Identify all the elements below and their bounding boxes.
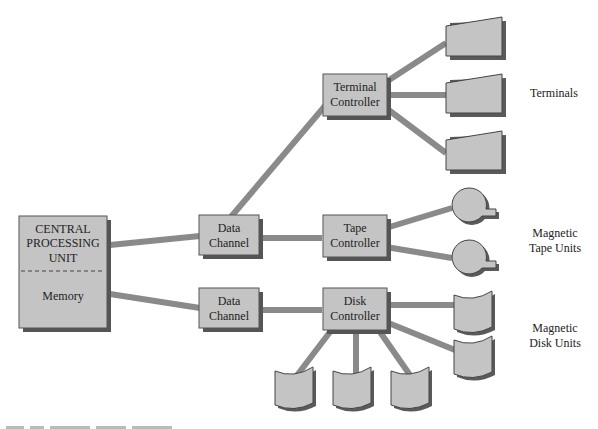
- terminal-icon: [446, 17, 506, 60]
- cpu-memory-box: CENTRAL PROCESSING UNIT Memory: [19, 216, 111, 332]
- link-disk-2: [386, 322, 455, 350]
- disk-icon: [333, 367, 374, 412]
- tape-unit-icon: [452, 188, 499, 225]
- link-terminal-3: [386, 108, 446, 153]
- tape-controller-line2: Controller: [330, 236, 379, 250]
- disk-icon: [275, 367, 316, 412]
- terminal-controller: Terminal Controller: [323, 74, 391, 120]
- link-memory-channel2: [110, 294, 200, 308]
- data-channel-1: Data Channel: [199, 215, 263, 259]
- disk-controller: Disk Controller: [323, 288, 391, 334]
- cpu-label-line3: UNIT: [49, 251, 78, 265]
- memory-label: Memory: [42, 289, 83, 303]
- terminal-controller-line1: Terminal: [333, 80, 377, 94]
- terminal-devices: Terminals: [446, 17, 578, 174]
- disk-controller-line1: Disk: [344, 294, 367, 308]
- tape-unit-icon: [452, 240, 499, 277]
- link-disk-5: [380, 332, 412, 378]
- figure-caption-cropped: [0, 424, 180, 429]
- connectors: [110, 43, 455, 378]
- disk-controller-line2: Controller: [330, 309, 379, 323]
- link-channel1-terminal-controller: [230, 100, 330, 218]
- terminal-icon: [446, 131, 506, 174]
- tape-units-label-line1: Magnetic: [532, 226, 577, 240]
- link-tape-2: [386, 247, 452, 258]
- data-channel-1-line1: Data: [218, 221, 241, 235]
- terminal-controller-line2: Controller: [330, 95, 379, 109]
- disk-units-label-line2: Disk Units: [529, 336, 581, 350]
- disk-icon: [454, 291, 495, 336]
- disk-icon: [391, 367, 432, 412]
- tape-controller: Tape Controller: [323, 215, 391, 261]
- cpu-label-line2: PROCESSING: [26, 236, 100, 250]
- tape-units: Magnetic Tape Units: [452, 188, 581, 277]
- data-channel-1-line2: Channel: [209, 236, 250, 250]
- data-channel-2-line1: Data: [218, 294, 241, 308]
- data-channel-2-line2: Channel: [209, 309, 250, 323]
- terminal-icon: [446, 74, 506, 117]
- link-cpu-channel1: [110, 236, 200, 245]
- link-terminal-1: [386, 43, 446, 82]
- data-channel-2: Data Channel: [199, 288, 263, 332]
- disk-units-label-line1: Magnetic: [532, 321, 577, 335]
- disk-icon: [454, 336, 495, 381]
- tape-controller-line1: Tape: [343, 221, 366, 235]
- cpu-label-line1: CENTRAL: [35, 222, 90, 236]
- link-tape-1: [386, 208, 452, 228]
- tape-units-label-line2: Tape Units: [529, 241, 581, 255]
- io-architecture-diagram: CENTRAL PROCESSING UNIT Memory Data Chan…: [0, 0, 598, 429]
- terminals-label: Terminals: [530, 86, 578, 100]
